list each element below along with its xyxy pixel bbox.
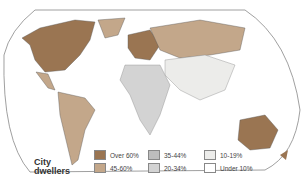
legend-title-line2: dwellers: [34, 167, 70, 176]
legend-swatch: [148, 150, 160, 160]
legend-swatch: [204, 150, 216, 160]
legend-swatch: [148, 163, 160, 173]
legend-title: City dwellers: [34, 158, 70, 176]
legend-item-45-60: 45-60%: [94, 163, 132, 173]
legend-item-35-44: 35-44%: [148, 150, 186, 160]
legend-label: 20-34%: [164, 165, 186, 172]
legend-label: Over 60%: [110, 152, 139, 159]
legend-swatch: [204, 163, 216, 173]
legend-label: 35-44%: [164, 152, 186, 159]
legend-label: Under 10%: [220, 165, 253, 172]
legend-item-10-19: 10-19%: [204, 150, 242, 160]
legend-swatch: [94, 150, 106, 160]
legend-item-20-34: 20-34%: [148, 163, 186, 173]
legend-swatch: [94, 163, 106, 173]
legend-item-over-60: Over 60%: [94, 150, 139, 160]
legend-item-under-10: Under 10%: [204, 163, 253, 173]
legend-label: 45-60%: [110, 165, 132, 172]
legend-label: 10-19%: [220, 152, 242, 159]
